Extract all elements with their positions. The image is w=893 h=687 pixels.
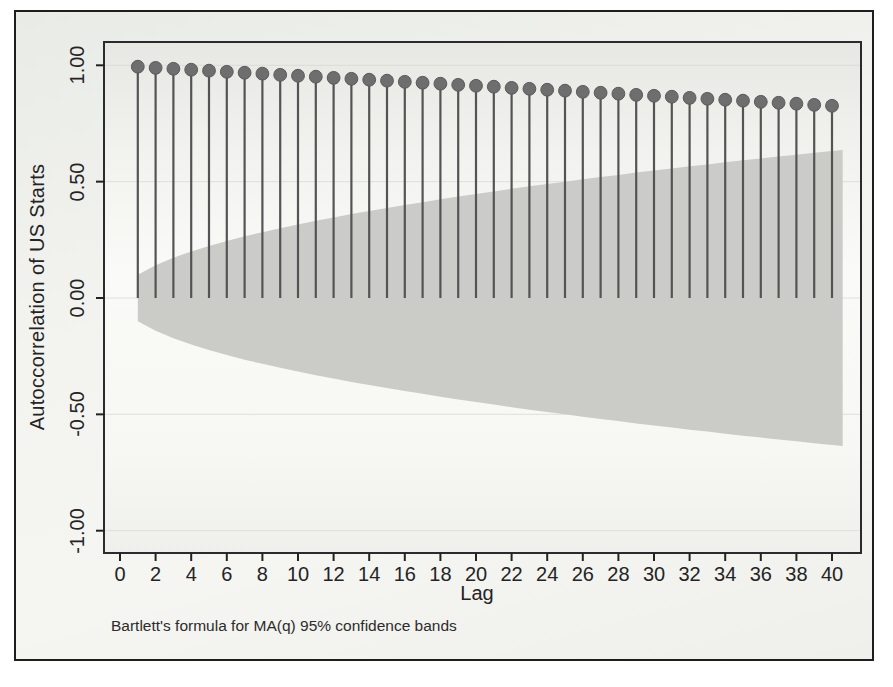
acf-dot [131,60,144,73]
acf-dot [434,77,447,90]
acf-dot [345,72,358,85]
x-tick-label: 30 [643,564,665,584]
x-tick-label: 32 [678,564,700,584]
y-tick-label: -1.00 [67,508,87,554]
x-tick-label: 24 [536,564,558,584]
x-tick-label: 8 [257,564,268,584]
acf-dot [309,70,322,83]
x-axis-title: Lag [460,583,493,603]
x-tick-label: 14 [358,564,380,584]
acf-dot [772,96,785,109]
acf-dot [808,98,821,111]
acf-dot [505,81,518,94]
acf-dot [274,68,287,81]
acf-dot [416,76,429,89]
x-tick-label: 34 [714,564,736,584]
x-tick-label: 40 [821,564,843,584]
acf-dot [185,63,198,76]
x-tick-label: 20 [465,564,487,584]
acf-dot [559,84,572,97]
acf-dot [541,83,554,96]
y-tick-label: -0.50 [67,392,87,438]
acf-dot [149,61,162,74]
y-axis-title: Autoccorrelation of US Starts [27,164,47,431]
acf-dot [398,75,411,88]
acf-dot [487,80,500,93]
acf-dot [576,85,589,98]
x-tick-label: 4 [186,564,197,584]
y-tick-label: 0.50 [67,162,87,201]
x-tick-label: 2 [150,564,161,584]
x-tick-label: 10 [287,564,309,584]
y-tick-label: 1.00 [67,46,87,85]
acf-dot [737,94,750,107]
footnote: Bartlett's formula for MA(q) 95% confide… [111,618,457,634]
acf-dot [683,91,696,104]
x-tick-label: 12 [322,564,344,584]
acf-dot [363,73,376,86]
x-tick-label: 28 [607,564,629,584]
acf-dot [292,69,305,82]
acf-dot [719,93,732,106]
acf-dot [381,74,394,87]
acf-dot [826,99,839,112]
acf-dot [790,97,803,110]
acf-dot [220,65,233,78]
acf-dot [754,95,767,108]
acf-dot [701,92,714,105]
acf-dot [648,89,661,102]
acf-dot [327,71,340,84]
acf-dot [452,78,465,91]
acf-dot [167,62,180,75]
x-tick-label: 18 [429,564,451,584]
x-tick-label: 0 [114,564,125,584]
acf-dot [665,90,678,103]
acf-dot [238,66,251,79]
acf-dot [523,82,536,95]
acf-dot [612,87,625,100]
acf-dot [203,64,216,77]
acf-dot [470,79,483,92]
x-tick-label: 22 [500,564,522,584]
acf-dot [256,67,269,80]
scanned-figure: 1.000.500.00-0.50-1.00 02468101214161820… [0,0,893,687]
y-tick-label: 0.00 [67,279,87,318]
acf-dot [630,88,643,101]
x-tick-label: 16 [394,564,416,584]
x-tick-label: 36 [750,564,772,584]
x-tick-label: 6 [221,564,232,584]
acf-dot [594,86,607,99]
x-tick-label: 26 [572,564,594,584]
x-tick-label: 38 [785,564,807,584]
